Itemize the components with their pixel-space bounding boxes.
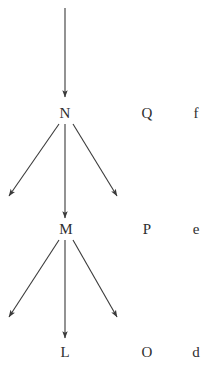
label-p: P [143, 222, 151, 237]
arrow-n-to-right [73, 124, 117, 196]
arrow-m-to-left [9, 240, 59, 317]
label-q: Q [142, 106, 153, 121]
arrow-n-to-left [9, 124, 59, 196]
label-o: O [142, 345, 153, 360]
label-e: e [193, 222, 200, 237]
arrow-layer [0, 0, 216, 376]
arrow-m-to-right [73, 240, 117, 317]
label-f: f [194, 106, 199, 121]
label-d: d [192, 345, 200, 360]
label-n: N [60, 106, 71, 121]
derivation-tree-figure: NQfMPeLOd [0, 0, 216, 376]
label-m: M [59, 222, 72, 237]
label-l: L [60, 345, 69, 360]
